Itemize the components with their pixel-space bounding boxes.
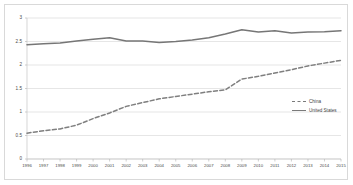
legend-label: United States	[309, 108, 337, 114]
series-lines	[27, 30, 341, 133]
y-axis-tick-label: 2	[8, 62, 22, 67]
y-axis-tick-label: 1.5	[8, 86, 22, 91]
series-line-united-states	[27, 30, 341, 45]
legend-label: China	[309, 99, 321, 105]
y-axis-tick-label: 3	[8, 15, 22, 20]
legend-swatch-dashed	[292, 101, 306, 102]
legend-item: China	[292, 97, 337, 106]
legend-item: United States	[292, 106, 337, 115]
y-axis-tick-label: 0.5	[8, 133, 22, 138]
gridlines	[27, 18, 341, 159]
y-axis-tick-label: 0	[8, 156, 22, 161]
chart-legend: ChinaUnited States	[292, 97, 337, 115]
line-chart	[0, 0, 353, 185]
y-axis-tick-label: 2.5	[8, 39, 22, 44]
legend-swatch-solid	[292, 110, 306, 111]
x-axis-ticks	[27, 159, 341, 162]
x-axis-tick-label: 2015	[330, 163, 352, 168]
y-axis-tick-label: 1	[8, 109, 22, 114]
